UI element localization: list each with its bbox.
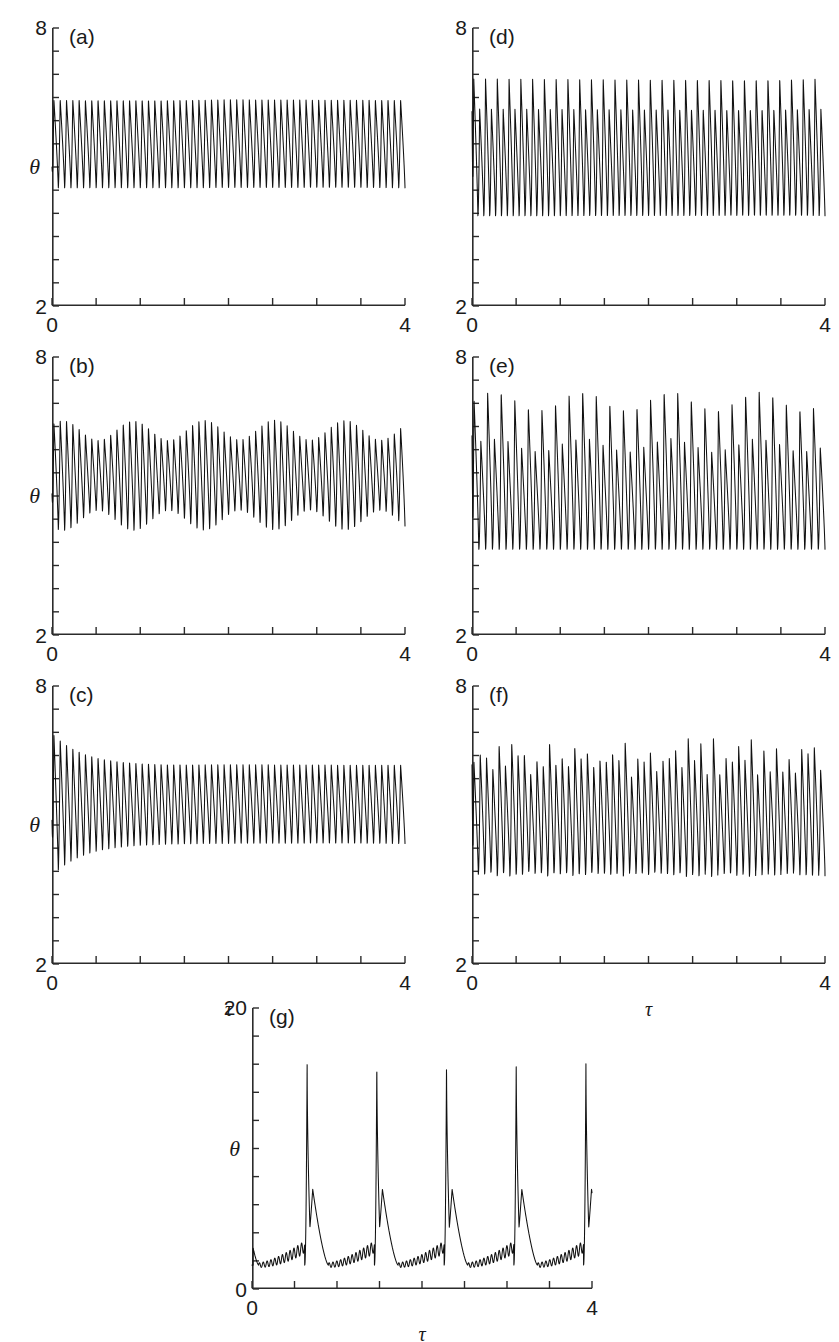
panel-label-c: (c) <box>69 683 94 707</box>
y-axis-title-theta: θ <box>29 154 40 180</box>
x-axis-min-label: 0 <box>46 972 58 993</box>
series-line-c <box>52 735 405 870</box>
panel-label-b: (b) <box>69 354 95 378</box>
x-axis-title-tau: τ <box>645 998 652 1021</box>
figure-time-series-panels: 8204θ(a)8204(d)8204θ(b)8204(e)8204θτ(c)8… <box>0 0 839 1342</box>
x-axis-ticks <box>52 956 405 963</box>
plot-area-e <box>472 357 839 649</box>
series-line-g <box>252 1064 592 1268</box>
y-axis-ticks <box>53 357 59 635</box>
x-axis-max-label: 4 <box>819 643 831 664</box>
panel-b: 8204θ(b) <box>52 357 405 635</box>
panel-label-d: (d) <box>489 25 515 49</box>
y-axis-title-theta: θ <box>229 1136 240 1162</box>
x-axis-title-tau: τ <box>418 1323 425 1342</box>
y-axis-max-label: 8 <box>35 346 47 367</box>
y-axis-ticks <box>473 28 479 306</box>
panel-g: 20004θτ(g) <box>252 1008 592 1289</box>
y-axis-ticks <box>53 686 59 964</box>
x-axis-ticks <box>472 956 825 963</box>
x-axis-ticks <box>472 298 825 305</box>
panel-c: 8204θτ(c) <box>52 686 405 964</box>
panel-label-f: (f) <box>489 683 509 707</box>
x-axis-max-label: 4 <box>399 314 411 335</box>
series-line-b <box>52 420 405 530</box>
x-axis-max-label: 4 <box>819 314 831 335</box>
series-line-f <box>472 739 825 877</box>
x-axis-min-label: 0 <box>246 1297 258 1318</box>
y-axis-max-label: 8 <box>455 17 467 38</box>
y-axis-max-label: 20 <box>224 997 247 1018</box>
plot-area-b <box>52 357 419 649</box>
panel-label-g: (g) <box>269 1005 295 1029</box>
panel-d: 8204(d) <box>472 28 825 306</box>
x-axis-min-label: 0 <box>466 972 478 993</box>
panel-f: 8204τ(f) <box>472 686 825 964</box>
y-axis-max-label: 8 <box>455 346 467 367</box>
panel-label-a: (a) <box>69 25 95 49</box>
x-axis-ticks <box>52 298 405 305</box>
plot-area-g <box>252 1008 606 1303</box>
y-axis-ticks <box>473 357 479 635</box>
x-axis-min-label: 0 <box>466 643 478 664</box>
x-axis-min-label: 0 <box>466 314 478 335</box>
panel-e: 8204(e) <box>472 357 825 635</box>
y-axis-title-theta: θ <box>29 483 40 509</box>
x-axis-min-label: 0 <box>46 314 58 335</box>
x-axis-max-label: 4 <box>399 643 411 664</box>
y-axis-ticks <box>53 28 59 306</box>
x-axis-ticks <box>472 627 825 634</box>
series-line-a <box>52 100 405 188</box>
y-axis-max-label: 8 <box>35 675 47 696</box>
x-axis-min-label: 0 <box>46 643 58 664</box>
x-axis-max-label: 4 <box>819 972 831 993</box>
y-axis-ticks <box>253 1008 259 1289</box>
y-axis-max-label: 8 <box>455 675 467 696</box>
plot-area-f <box>472 686 839 978</box>
series-line-d <box>472 79 825 216</box>
panel-label-e: (e) <box>489 354 515 378</box>
x-axis-max-label: 4 <box>586 1297 598 1318</box>
plot-area-c <box>52 686 419 978</box>
plot-area-d <box>472 28 839 320</box>
series-line-e <box>472 392 825 549</box>
x-axis-ticks <box>252 1281 592 1288</box>
x-axis-ticks <box>52 627 405 634</box>
y-axis-max-label: 8 <box>35 17 47 38</box>
plot-area-a <box>52 28 419 320</box>
y-axis-title-theta: θ <box>29 812 40 838</box>
x-axis-max-label: 4 <box>399 972 411 993</box>
panel-a: 8204θ(a) <box>52 28 405 306</box>
